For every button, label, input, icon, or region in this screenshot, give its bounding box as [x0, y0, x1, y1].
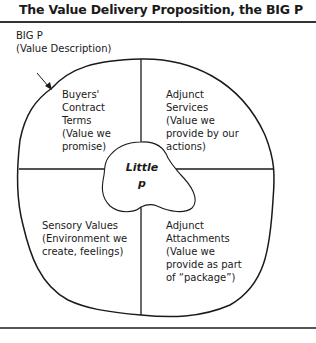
- bottom-rule: [0, 327, 316, 329]
- quadrant-text: actions): [166, 140, 239, 153]
- quadrant-adjunct-services: Adjunct Services (Value we provide by ou…: [166, 88, 239, 153]
- quadrant-buyers-contract-terms: Buyers' Contract Terms (Value we promise…: [62, 88, 111, 153]
- quadrant-text: create, feelings): [42, 245, 127, 258]
- quadrant-text: provide by our: [166, 127, 239, 140]
- quadrant-text: Sensory Values: [42, 219, 127, 232]
- quadrant-text: Adjunct: [166, 219, 242, 232]
- quadrant-adjunct-attachments: Adjunct Attachments (Value we provide as…: [166, 219, 242, 284]
- quadrant-text: (Environment we: [42, 232, 127, 245]
- quadrant-text: Adjunct: [166, 88, 239, 101]
- quadrant-text: (Value we: [62, 127, 111, 140]
- quadrant-text: Attachments: [166, 232, 242, 245]
- little-p-word: Little: [122, 160, 162, 176]
- quadrant-text: Services: [166, 101, 239, 114]
- quadrant-text: (Value we: [166, 245, 242, 258]
- quadrant-sensory-values: Sensory Values (Environment we create, f…: [42, 219, 127, 258]
- quadrant-text: provide as part: [166, 258, 242, 271]
- quadrant-text: (Value we: [166, 114, 239, 127]
- little-p-label: Little p: [122, 160, 162, 192]
- quadrant-text: Contract: [62, 101, 111, 114]
- quadrant-text: promise): [62, 140, 111, 153]
- quadrant-text: Terms: [62, 114, 111, 127]
- pointer-arrow-icon: [37, 73, 52, 90]
- little-p-letter: p: [122, 176, 162, 192]
- quadrant-text: of “package”): [166, 271, 242, 284]
- quadrant-text: Buyers': [62, 88, 111, 101]
